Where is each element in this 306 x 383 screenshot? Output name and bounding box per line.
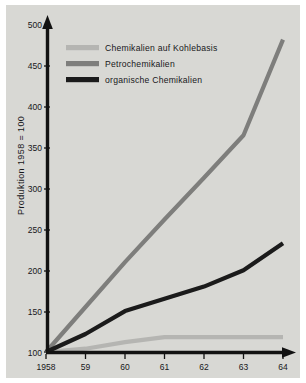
y-tick-label: 400 [28, 102, 42, 112]
legend-label-coal: Chemikalien auf Kohlebasis [105, 43, 218, 53]
y-tick-label: 150 [28, 307, 42, 317]
chart-page: Produktion 1958 = 100 500 450 400 350 30… [0, 0, 306, 383]
y-tick-label: 250 [28, 225, 42, 235]
legend-label-organic: organische Chemikalien [105, 75, 202, 85]
y-tick-labels: 500 450 400 350 300 250 200 150 100 [28, 20, 42, 358]
y-tick-label: 450 [28, 61, 42, 71]
legend-swatch-petro [66, 61, 99, 66]
series-line-petro [46, 40, 283, 352]
x-tick-label: 1958 [37, 362, 56, 372]
x-tick-labels: 1958 59 60 61 62 63 64 [37, 362, 288, 372]
line-chart: Produktion 1958 = 100 500 450 400 350 30… [0, 0, 306, 383]
x-tick-label: 61 [160, 362, 170, 372]
y-axis-arrowhead [42, 15, 53, 29]
chart-legend: Chemikalien auf Kohlebasis Petrochemikal… [66, 43, 218, 85]
y-tick-label: 300 [28, 184, 42, 194]
legend-swatch-organic [66, 77, 99, 82]
x-tick-label: 59 [81, 362, 91, 372]
x-tick-label: 60 [120, 362, 130, 372]
y-tick-label: 200 [28, 266, 42, 276]
y-tick-label: 350 [28, 143, 42, 153]
y-tick-label: 500 [28, 20, 42, 30]
y-tick-label: 100 [28, 348, 42, 358]
series-line-coal [46, 337, 283, 352]
legend-swatch-coal [66, 45, 99, 50]
x-tick-marks [46, 354, 283, 359]
x-axis-arrowhead [282, 347, 296, 357]
y-axis-title: Produktion 1958 = 100 [16, 116, 26, 215]
x-tick-label: 63 [239, 362, 249, 372]
legend-label-petro: Petrochemikalien [105, 59, 175, 69]
x-tick-label: 64 [278, 362, 288, 372]
x-tick-label: 62 [199, 362, 209, 372]
